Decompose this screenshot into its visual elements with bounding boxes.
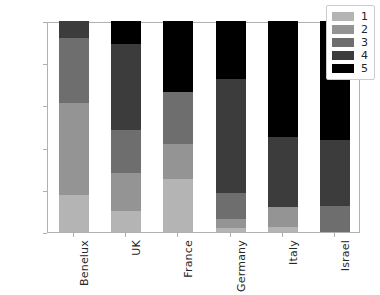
legend-label: 1 bbox=[361, 11, 368, 22]
bar-segment-5 bbox=[111, 21, 141, 44]
legend-item-2[interactable]: 2 bbox=[332, 23, 368, 36]
bar-segment-4 bbox=[320, 140, 350, 205]
bar-segment-1 bbox=[163, 179, 193, 232]
x-tick-label: Benelux bbox=[78, 240, 91, 286]
bar-segment-2 bbox=[59, 103, 89, 195]
x-tick-mark bbox=[334, 233, 335, 237]
bar-segment-1 bbox=[111, 211, 141, 232]
plot-area bbox=[47, 22, 360, 233]
bar-germany[interactable] bbox=[216, 21, 246, 232]
x-tick-mark bbox=[125, 233, 126, 237]
bar-segment-2 bbox=[163, 144, 193, 179]
x-tick-label: Germany bbox=[235, 240, 248, 292]
legend-label: 5 bbox=[361, 63, 368, 74]
bar-segment-3 bbox=[111, 130, 141, 173]
bar-segment-4 bbox=[216, 79, 246, 193]
legend-swatch-4 bbox=[332, 51, 354, 60]
x-tick-mark bbox=[282, 233, 283, 237]
bar-uk[interactable] bbox=[111, 21, 141, 232]
bar-segment-3 bbox=[59, 38, 89, 103]
bar-benelux[interactable] bbox=[59, 21, 89, 232]
chart-figure: 0.00.20.40.60.81.0 BeneluxUKFranceGerman… bbox=[0, 0, 380, 295]
bar-segment-5 bbox=[163, 21, 193, 92]
x-tick-label: Israel bbox=[339, 240, 352, 271]
y-tick-mark bbox=[43, 233, 47, 234]
legend-swatch-3 bbox=[332, 38, 354, 47]
bar-segment-2 bbox=[268, 207, 298, 227]
bar-segment-1 bbox=[59, 195, 89, 232]
legend-swatch-1 bbox=[332, 12, 354, 21]
bar-segment-2 bbox=[111, 173, 141, 211]
bar-segment-1 bbox=[216, 228, 246, 232]
x-tick-label: France bbox=[182, 240, 195, 278]
bar-segment-4 bbox=[59, 21, 89, 38]
bar-segment-3 bbox=[216, 193, 246, 219]
x-tick-label: UK bbox=[130, 240, 143, 256]
legend-label: 2 bbox=[361, 24, 368, 35]
legend-label: 3 bbox=[361, 37, 368, 48]
bar-segment-5 bbox=[216, 21, 246, 79]
bar-italy[interactable] bbox=[268, 21, 298, 232]
legend-label: 4 bbox=[361, 50, 368, 61]
legend-swatch-2 bbox=[332, 25, 354, 34]
x-tick-mark bbox=[73, 233, 74, 237]
x-tick-label: Italy bbox=[287, 240, 300, 265]
bar-segment-1 bbox=[268, 227, 298, 232]
legend-item-4[interactable]: 4 bbox=[332, 49, 368, 62]
legend-item-5[interactable]: 5 bbox=[332, 62, 368, 75]
chart-legend[interactable]: 12345 bbox=[326, 5, 375, 80]
bar-segment-2 bbox=[216, 219, 246, 227]
bar-segment-4 bbox=[268, 137, 298, 207]
bar-segment-3 bbox=[320, 206, 350, 232]
bar-segment-4 bbox=[111, 44, 141, 129]
bar-segment-5 bbox=[268, 21, 298, 137]
bar-france[interactable] bbox=[163, 21, 193, 232]
x-tick-mark bbox=[177, 233, 178, 237]
legend-swatch-5 bbox=[332, 64, 354, 73]
legend-item-3[interactable]: 3 bbox=[332, 36, 368, 49]
x-tick-mark bbox=[230, 233, 231, 237]
bar-segment-3 bbox=[163, 92, 193, 145]
legend-item-1[interactable]: 1 bbox=[332, 10, 368, 23]
